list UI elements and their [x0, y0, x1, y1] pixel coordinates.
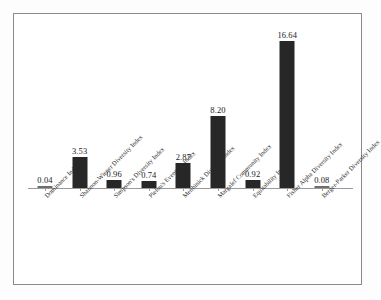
bar-group	[166, 28, 200, 188]
bar-value-label: 3.53	[72, 146, 87, 156]
bar-value-label: 0.08	[314, 175, 329, 185]
bar[interactable]	[176, 163, 191, 188]
bar[interactable]	[211, 116, 226, 188]
bar-group	[63, 28, 97, 188]
bar-group	[270, 28, 304, 188]
bar-value-label: 0.92	[245, 169, 260, 179]
bar-value-label: 2.87	[176, 152, 191, 162]
bar-value-label: 0.74	[141, 170, 156, 180]
bar-value-label: 16.64	[277, 30, 297, 40]
bar-group	[305, 28, 339, 188]
bar[interactable]	[72, 157, 87, 188]
bar-group	[97, 28, 131, 188]
chart-frame: 0.04Dominance Index3.53Shannon-Wiener Di…	[13, 13, 362, 285]
bar-value-label: 0.96	[107, 169, 122, 179]
plot-area: 0.04Dominance Index3.53Shannon-Wiener Di…	[14, 14, 363, 286]
bar-group	[132, 28, 166, 188]
bar-group	[28, 28, 62, 188]
bar-value-label: 0.04	[37, 175, 52, 185]
bar[interactable]	[280, 41, 295, 188]
bar-value-label: 8.20	[210, 105, 225, 115]
bar-group	[236, 28, 270, 188]
